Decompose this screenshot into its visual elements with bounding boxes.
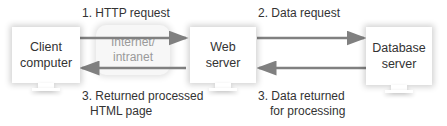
client-label-1: Client	[30, 40, 62, 54]
db-label-1: Database	[372, 41, 426, 55]
db-base	[385, 90, 413, 93]
data-returned-label-2: for processing	[270, 104, 345, 119]
db-label-2: server	[382, 57, 417, 71]
returned-page-label-2: HTML page	[90, 104, 152, 119]
client-base	[32, 88, 60, 91]
web-server-node: Web server	[190, 27, 256, 83]
web-base	[209, 88, 237, 91]
returned-page-label-1: 3. Returned processed	[82, 89, 203, 104]
database-server-node: Database server	[366, 27, 432, 85]
web-label-2: server	[206, 56, 241, 70]
client-label-2: computer	[20, 56, 72, 70]
client-computer-node: Client computer	[12, 27, 80, 83]
http-request-label: 1. HTTP request	[82, 6, 170, 21]
data-returned-label-1: 3. Data returned	[258, 89, 345, 104]
web-label-1: Web	[210, 40, 235, 54]
data-request-label: 2. Data request	[258, 6, 340, 21]
